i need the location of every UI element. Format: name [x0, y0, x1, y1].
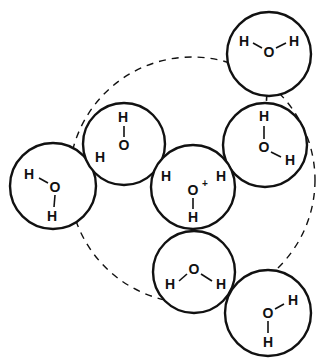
- hydrogen-label: H: [165, 276, 175, 292]
- oxygen-label: O: [119, 137, 130, 153]
- hydrogen-label: H: [216, 276, 226, 292]
- hydrogen-label: H: [288, 292, 298, 308]
- hydrogen-label: H: [188, 209, 198, 225]
- covalent-bond: [54, 195, 55, 207]
- hydronium-hydration-diagram: O + H H H O H H O H H O H H O H H: [0, 0, 325, 364]
- oxygen-label: O: [50, 179, 61, 195]
- diagram-canvas: O + H H H O H H O H H O H H O H H: [0, 0, 325, 364]
- hydrogen-label: H: [263, 334, 273, 350]
- hydrogen-label: H: [47, 208, 57, 224]
- oxygen-label: O: [189, 261, 200, 277]
- hydrogen-label: H: [239, 33, 249, 49]
- hydrogen-label: H: [259, 108, 269, 124]
- hydrogen-label: H: [24, 166, 34, 182]
- hydrogen-label: H: [285, 152, 295, 168]
- hydrogen-label: H: [216, 168, 226, 184]
- hydrogen-label: H: [95, 149, 105, 165]
- oxygen-label: O: [259, 139, 270, 155]
- hydrogen-label: H: [289, 33, 299, 49]
- oxygen-label: O: [188, 182, 199, 198]
- positive-charge-label: +: [202, 178, 208, 189]
- hydrogen-label: H: [161, 168, 171, 184]
- hydrogen-label: H: [118, 109, 128, 125]
- oxygen-label: O: [263, 305, 274, 321]
- oxygen-label: O: [264, 44, 275, 60]
